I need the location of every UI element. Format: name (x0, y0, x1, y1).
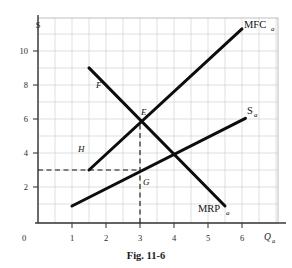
y-tick-label-2: 2 (24, 182, 28, 192)
x-axis-title: Q (264, 232, 271, 242)
x-tick-label-5: 5 (206, 233, 210, 243)
y-tick-marks (33, 51, 38, 187)
x-tick-label-4: 4 (172, 233, 177, 243)
curve-label-mrp-subscript: a (226, 209, 230, 217)
curve-label-supply: S (247, 105, 253, 116)
y-tick-label-10: 10 (20, 46, 29, 56)
x-tick-label-1: 1 (70, 233, 74, 243)
y-axis-title: $ (36, 20, 41, 30)
origin-label: 0 (22, 233, 26, 243)
x-tick-label-6: 6 (240, 233, 244, 243)
x-tick-label-2: 2 (104, 233, 108, 243)
curve-label-mrp: MRP (198, 203, 220, 214)
x-tick-label-3: 3 (138, 233, 142, 243)
x-axis-title-subscript: a (272, 237, 275, 244)
point-label-h: H (77, 144, 85, 154)
curve-label-mfc-subscript: a (271, 25, 275, 33)
y-tick-label-6: 6 (24, 114, 28, 124)
x-tick-marks (72, 223, 242, 228)
figure-container: 10 8 6 4 2 1 2 3 4 5 6 0 $ Q a MFC a S (0, 0, 292, 268)
economics-chart: 10 8 6 4 2 1 2 3 4 5 6 0 $ Q a MFC a S (0, 0, 292, 268)
point-label-f: F (95, 80, 102, 90)
figure-caption: Fig. 11-6 (127, 250, 166, 261)
curve-label-supply-subscript: a (254, 111, 258, 119)
point-label-g: G (143, 177, 150, 187)
curve-label-mfc: MFC (244, 19, 266, 30)
y-tick-label-8: 8 (24, 80, 28, 90)
y-tick-label-4: 4 (24, 148, 29, 158)
point-label-e: E (140, 107, 147, 117)
